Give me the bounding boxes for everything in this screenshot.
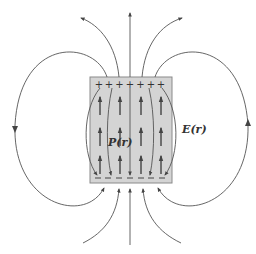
svg-text:+: +	[147, 79, 155, 90]
svg-text:+: +	[115, 79, 123, 90]
svg-text:+: +	[157, 79, 165, 90]
polarized-slab-diagram: + + + + + + +	[0, 0, 256, 254]
dielectric-slab	[90, 77, 172, 183]
svg-text:+: +	[136, 79, 144, 90]
svg-text:+: +	[95, 79, 103, 90]
field-label: E(r)	[181, 123, 207, 136]
polarization-label: P(r)	[107, 136, 132, 149]
